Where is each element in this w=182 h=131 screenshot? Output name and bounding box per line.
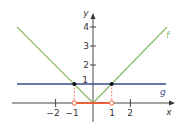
open-endpoint-right [110,101,114,105]
x-tick-label: −2 [46,108,59,118]
x-axis-label: x [165,107,172,117]
y-tick-label: 4 [83,22,89,32]
open-endpoint-left [72,101,76,105]
y-tick-label: 3 [83,41,89,51]
series-f-label: f [166,30,171,40]
intersection-point-right [110,82,114,86]
x-tick-label: 2 [127,108,133,118]
x-tick-label: 1 [109,108,115,118]
chart: −2 −1 1 2 1 2 3 4 y x f g [0,0,182,131]
series-g-label: g [160,87,166,97]
intersection-point-left [72,82,76,86]
y-axis-arrow-icon [91,13,96,19]
y-tick-label: 1 [82,75,88,85]
y-tick-label: 2 [83,60,89,70]
x-axis-arrow-icon [169,101,175,106]
x-tick-label: −1 [65,108,78,118]
y-axis-label: y [82,8,89,18]
